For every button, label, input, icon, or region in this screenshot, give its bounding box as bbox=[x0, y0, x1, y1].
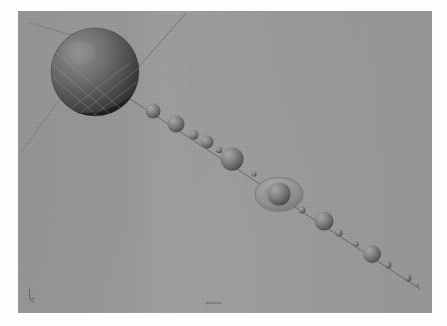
scene-svg bbox=[18, 11, 432, 313]
axis-lower-left-line bbox=[22, 99, 60, 151]
body-13 bbox=[363, 245, 381, 263]
body-16 bbox=[415, 283, 418, 286]
body-5 bbox=[216, 147, 222, 153]
caption-bottom-center: planetary bbox=[206, 301, 222, 305]
body-7 bbox=[251, 171, 256, 176]
render-canvas: fig. planetary bbox=[18, 11, 432, 313]
body-15 bbox=[405, 275, 412, 282]
figure-root: fig. planetary bbox=[0, 0, 447, 326]
body-2 bbox=[168, 116, 185, 133]
body-1 bbox=[146, 104, 161, 119]
ringed-body bbox=[255, 177, 303, 212]
corner-tick-mark bbox=[29, 289, 35, 299]
caption-bottom-left: fig. bbox=[30, 299, 35, 303]
body-12 bbox=[353, 241, 358, 246]
ringed-body-core bbox=[268, 183, 291, 206]
primary-sphere bbox=[36, 28, 146, 141]
body-3 bbox=[190, 131, 199, 140]
body-4 bbox=[201, 136, 214, 149]
body-6 bbox=[221, 148, 244, 171]
body-10 bbox=[315, 212, 334, 231]
body-11 bbox=[335, 229, 342, 236]
body-14 bbox=[385, 262, 392, 269]
body-chain bbox=[146, 104, 419, 287]
body-9 bbox=[299, 207, 306, 214]
